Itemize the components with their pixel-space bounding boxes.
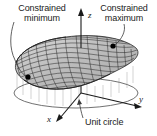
constrained-maximum-label: Constrained maximum [93, 3, 155, 23]
constrained-minimum-label: Constrained minimum [11, 3, 73, 23]
constrained-maximum-label-line1: Constrained [93, 3, 155, 13]
x-axis-label: x [47, 115, 51, 124]
constrained-maximum-label-line2: maximum [93, 13, 155, 23]
unit-circle-leader-arrowhead [77, 99, 82, 105]
constrained-minimum-label-line1: Constrained [11, 3, 73, 13]
unit-circle-label: Unit circle [85, 117, 123, 127]
y-axis [81, 93, 137, 106]
constrained-minimum-leader [11, 22, 15, 60]
z-axis-arrowhead [78, 8, 84, 16]
constrained-maximum-marker [110, 43, 115, 48]
constrained-extrema-figure: Constrained minimum Constrained maximum … [0, 0, 157, 136]
constrained-minimum-label-line2: minimum [11, 13, 73, 23]
y-axis-label: y [139, 95, 143, 104]
z-axis-label: z [88, 11, 92, 20]
constrained-minimum-marker [25, 74, 30, 79]
